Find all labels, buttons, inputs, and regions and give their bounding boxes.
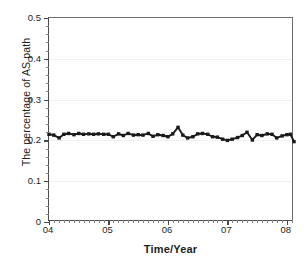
- x-tick-minor: [198, 220, 199, 223]
- x-tick-minor: [74, 220, 75, 223]
- y-tick-major: [44, 18, 49, 19]
- data-point-marker: [255, 133, 258, 136]
- x-tick-label: 07: [211, 224, 241, 235]
- x-tick-label: 05: [92, 224, 122, 235]
- y-tick-label: 0.3: [1, 93, 41, 104]
- x-tick-minor: [262, 220, 263, 223]
- y-tick-minor: [46, 83, 49, 84]
- y-tick-minor: [46, 26, 49, 27]
- x-tick-minor: [69, 220, 70, 223]
- data-point-marker: [171, 132, 174, 135]
- y-tick-minor: [46, 198, 49, 199]
- y-tick-minor: [46, 34, 49, 35]
- data-point-marker: [226, 139, 229, 142]
- data-series-line: [49, 18, 294, 222]
- data-point-marker: [112, 135, 115, 138]
- x-tick-minor: [193, 220, 194, 223]
- x-tick-minor: [133, 220, 134, 223]
- x-tick-minor: [89, 220, 90, 223]
- x-tick-minor: [143, 220, 144, 223]
- data-point-marker: [285, 133, 288, 136]
- data-point-marker: [141, 133, 144, 136]
- data-point-marker: [107, 133, 110, 136]
- x-tick-minor: [237, 220, 238, 223]
- x-tick-minor: [203, 220, 204, 223]
- y-tick-minor: [46, 132, 49, 133]
- data-point-marker: [67, 132, 70, 135]
- y-tick-label: 0.1: [1, 175, 41, 186]
- y-tick-minor: [46, 157, 49, 158]
- data-point-marker: [266, 132, 269, 135]
- data-point-marker: [251, 138, 254, 141]
- x-tick-minor: [257, 220, 258, 223]
- y-tick-minor: [46, 42, 49, 43]
- data-point-marker: [230, 137, 233, 140]
- data-point-marker: [289, 133, 292, 136]
- data-point-marker: [236, 136, 239, 139]
- x-tick-minor: [94, 220, 95, 223]
- y-tick-minor: [46, 75, 49, 76]
- x-tick-label: 08: [271, 224, 301, 235]
- y-tick-major: [44, 59, 49, 60]
- data-point-marker: [92, 133, 95, 136]
- y-tick-minor: [46, 108, 49, 109]
- x-tick-minor: [188, 220, 189, 223]
- x-tick-minor: [178, 220, 179, 223]
- data-point-marker: [280, 134, 283, 137]
- x-tick-minor: [277, 220, 278, 223]
- x-tick-minor: [267, 220, 268, 223]
- x-tick-label: 06: [152, 224, 182, 235]
- x-axis-title: Time/Year: [48, 243, 293, 255]
- y-tick-minor: [46, 165, 49, 166]
- x-tick-minor: [84, 220, 85, 223]
- data-point-marker: [245, 131, 248, 134]
- data-point-marker: [211, 135, 214, 138]
- data-point-marker: [186, 136, 189, 139]
- data-point-marker: [270, 133, 273, 136]
- x-tick-minor: [173, 220, 174, 223]
- data-point-marker: [126, 132, 129, 135]
- data-point-marker: [161, 134, 164, 137]
- y-tick-minor: [46, 189, 49, 190]
- x-tick-minor: [54, 220, 55, 223]
- data-point-marker: [52, 133, 55, 136]
- data-point-marker: [137, 133, 140, 136]
- y-tick-label: 0.5: [1, 12, 41, 23]
- x-tick-minor: [292, 220, 293, 223]
- data-point-marker: [62, 133, 65, 136]
- data-point-marker: [196, 132, 199, 135]
- y-tick-minor: [46, 51, 49, 52]
- data-point-marker: [122, 134, 125, 137]
- data-point-marker: [97, 132, 100, 135]
- y-tick-minor: [46, 67, 49, 68]
- x-tick-minor: [99, 220, 100, 223]
- x-tick-minor: [104, 220, 105, 223]
- x-tick-minor: [113, 220, 114, 223]
- data-point-marker: [77, 132, 80, 135]
- data-point-marker: [241, 134, 244, 137]
- x-tick-minor: [247, 220, 248, 223]
- data-point-marker: [216, 135, 219, 138]
- data-point-marker: [156, 133, 159, 136]
- data-point-marker: [260, 134, 263, 137]
- y-tick-major: [44, 181, 49, 182]
- data-point-marker: [181, 133, 184, 136]
- y-tick-minor: [46, 124, 49, 125]
- x-tick-minor: [153, 220, 154, 223]
- data-point-marker: [102, 133, 105, 136]
- data-point-marker: [82, 133, 85, 136]
- y-tick-major: [44, 140, 49, 141]
- y-tick-minor: [46, 91, 49, 92]
- x-tick-minor: [59, 220, 60, 223]
- data-point-marker: [292, 140, 295, 143]
- data-point-marker: [221, 137, 224, 140]
- data-point-marker: [147, 132, 150, 135]
- x-tick-minor: [282, 220, 283, 223]
- x-tick-minor: [64, 220, 65, 223]
- y-tick-major: [44, 100, 49, 101]
- x-tick-minor: [123, 220, 124, 223]
- plot-area: [48, 17, 293, 221]
- data-point-marker: [275, 136, 278, 139]
- x-tick-minor: [183, 220, 184, 223]
- data-point-marker: [151, 135, 154, 138]
